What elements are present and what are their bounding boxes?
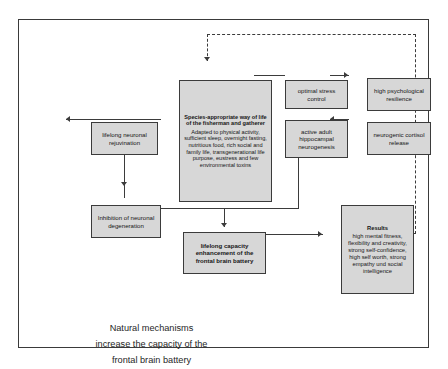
node-results[interactable]: Results high mental fitness, flexibility… [341, 205, 414, 294]
node-active-adult-hippocampal-neurogenesis[interactable]: active adult hippocampal neurogenesis [285, 120, 348, 158]
arrowhead-to-resilience [344, 72, 348, 78]
diagram-frame: Species-appropriate way of life of the f… [18, 19, 429, 348]
node-species-body: Adapted to physical activity, sufficient… [182, 128, 269, 170]
connector-hippocampal-to-capacity-horizontal [143, 208, 299, 209]
node-rejuvination-label: lifelong neuronal rejuvination [92, 130, 157, 146]
caption-line-3: frontal brain battery [59, 352, 244, 368]
arrowhead-to-results [318, 231, 322, 237]
arrowhead-feedback-to-species [204, 57, 210, 61]
node-stress-label: optimal stress control [286, 86, 347, 102]
arrowhead-to-capacity [221, 223, 227, 227]
node-optimal-stress-control[interactable]: optimal stress control [285, 80, 348, 109]
node-resilience-label: high psychological resilience [368, 86, 430, 102]
node-species-title: Species-appropriate way of life of the f… [182, 113, 269, 128]
arrowhead-to-inhibition [121, 182, 127, 186]
node-cortisol-label: neurogenic cortisol release [368, 130, 430, 146]
node-capacity-label: lifelong capacity enhancement of the fro… [184, 241, 265, 265]
node-results-body: high mental fitness, flexibility and cre… [344, 232, 411, 275]
node-results-title: Results [344, 224, 411, 233]
node-inhibition-of-neuronal-degeneration[interactable]: Inhibition of neuronal degeneration [91, 205, 161, 238]
caption-line-1: Natural mechanisms [59, 320, 244, 336]
node-inhibition-label: Inhibition of neuronal degeneration [92, 213, 160, 229]
diagram-caption: Natural mechanisms increase the capacity… [59, 320, 244, 368]
node-hippocampal-label: active adult hippocampal neurogenesis [286, 127, 347, 151]
feedback-dashed-top [207, 34, 416, 35]
node-species-way-of-life[interactable]: Species-appropriate way of life of the f… [179, 80, 272, 202]
caption-line-2: increase the capacity of the [59, 336, 244, 352]
node-lifelong-neuronal-rejuvination[interactable]: lifelong neuronal rejuvination [91, 122, 158, 155]
connector-species-to-rejuvination [66, 119, 161, 120]
node-lifelong-capacity-enhancement[interactable]: lifelong capacity enhancement of the fro… [183, 232, 266, 274]
node-high-psychological-resilience[interactable]: high psychological resilience [367, 78, 431, 111]
arrowhead-to-rejuvination [66, 116, 70, 122]
connector-species-to-stress [254, 75, 285, 76]
node-neurogenic-cortisol-release[interactable]: neurogenic cortisol release [367, 122, 431, 155]
